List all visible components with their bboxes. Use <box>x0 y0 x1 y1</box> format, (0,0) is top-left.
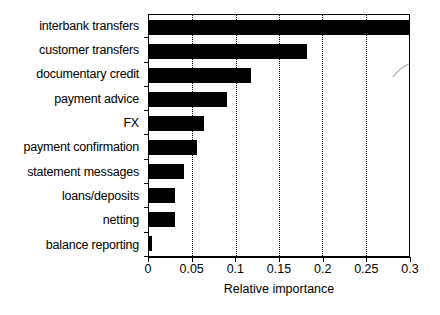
category-label: documentary credit <box>0 63 144 87</box>
bar-row <box>149 232 409 256</box>
category-label: statement messages <box>0 160 144 184</box>
x-axis-tick-label: 0.3 <box>401 263 418 276</box>
bar-row <box>149 87 409 111</box>
category-label: payment advice <box>0 87 144 111</box>
category-label: FX <box>0 111 144 135</box>
category-axis: interbank transferscustomer transfersdoc… <box>0 14 144 257</box>
x-axis-tick-labels: 00.050.10.150.20.250.3 <box>148 263 410 279</box>
x-axis-tick-label: 0.2 <box>314 263 331 276</box>
x-axis-tick-label: 0 <box>145 263 152 276</box>
bar-row <box>149 160 409 184</box>
category-label: payment confirmation <box>0 135 144 159</box>
bar <box>149 140 197 155</box>
bar-row <box>149 63 409 87</box>
category-label: customer transfers <box>0 38 144 62</box>
bar <box>149 236 152 251</box>
bar-row <box>149 39 409 63</box>
x-axis-tick-label: 0.05 <box>179 263 203 276</box>
category-label: loans/deposits <box>0 184 144 208</box>
bar-row <box>149 15 409 39</box>
category-label: netting <box>0 208 144 232</box>
bar-row <box>149 208 409 232</box>
bar-row <box>149 111 409 135</box>
bar <box>149 116 204 131</box>
bar <box>149 44 307 59</box>
bar-row <box>149 135 409 159</box>
x-axis-tick-label: 0.1 <box>227 263 244 276</box>
x-axis-title: Relative importance <box>148 283 410 296</box>
bar <box>149 164 184 179</box>
bar <box>149 188 175 203</box>
x-axis-tick-label: 0.15 <box>267 263 291 276</box>
bar <box>149 92 227 107</box>
bar <box>149 20 409 35</box>
category-label: interbank transfers <box>0 14 144 38</box>
bar-series <box>149 15 409 256</box>
category-label: balance reporting <box>0 233 144 257</box>
relative-importance-bar-chart: interbank transferscustomer transfersdoc… <box>0 0 440 315</box>
x-axis-tick-label: 0.25 <box>354 263 378 276</box>
bar <box>149 68 251 83</box>
bar <box>149 212 175 227</box>
plot-area <box>148 14 410 257</box>
bar-row <box>149 184 409 208</box>
